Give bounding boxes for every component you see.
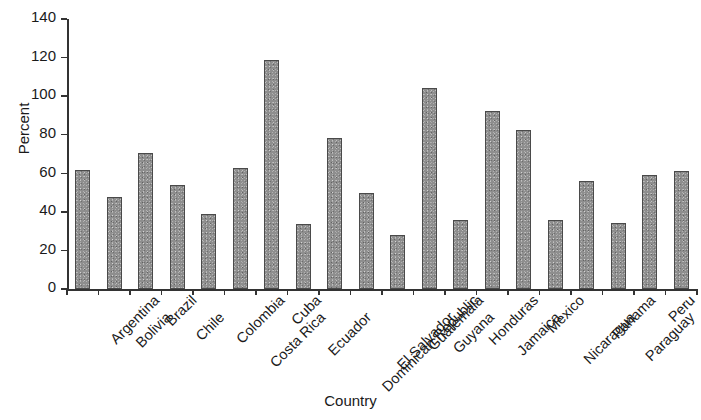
bar — [233, 168, 248, 290]
bar — [390, 235, 405, 289]
y-axis-line — [67, 19, 69, 289]
y-tick: 140 — [61, 18, 67, 19]
bar — [579, 181, 594, 289]
bar-chart: Percent 020406080100120140 ArgentinaBoli… — [0, 0, 701, 420]
bar — [296, 224, 311, 289]
bar — [485, 111, 500, 289]
bar — [422, 88, 437, 289]
x-axis-category-labels: ArgentinaBoliviaBrazilChileColombiaCosta… — [67, 292, 697, 382]
bar — [327, 138, 342, 289]
x-axis-title: Country — [0, 392, 701, 409]
bar — [264, 60, 279, 289]
y-tick-label: 100 — [16, 85, 56, 102]
y-tick-label: 20 — [16, 240, 56, 257]
x-tick-label: Colombia — [233, 292, 288, 347]
x-tick-label: Chile — [193, 309, 228, 344]
y-tick-label: 0 — [16, 278, 56, 295]
y-tick-label: 120 — [16, 47, 56, 64]
bar — [674, 171, 689, 289]
y-tick: 40 — [61, 211, 67, 212]
bar — [642, 175, 657, 289]
x-tick-label: Panama — [609, 292, 659, 342]
x-tick-label: Ecuador — [325, 309, 375, 359]
bar — [516, 130, 531, 289]
y-tick: 100 — [61, 95, 67, 96]
y-tick-label: 60 — [16, 163, 56, 180]
bar — [201, 214, 216, 289]
bar — [75, 170, 90, 289]
bar — [359, 193, 374, 289]
bar — [453, 220, 468, 289]
y-tick-label: 140 — [16, 8, 56, 25]
plot-area: 020406080100120140 — [67, 19, 697, 289]
y-tick: 80 — [61, 134, 67, 135]
y-tick: 20 — [61, 250, 67, 251]
y-tick: 120 — [61, 57, 67, 58]
x-tick-label: Brazil — [162, 292, 199, 329]
y-tick: 60 — [61, 173, 67, 174]
bar — [611, 223, 626, 289]
y-tick-label: 80 — [16, 124, 56, 141]
bar — [170, 185, 185, 289]
bar — [548, 220, 563, 289]
y-tick-label: 40 — [16, 201, 56, 218]
bar — [138, 153, 153, 289]
bar — [107, 197, 122, 289]
